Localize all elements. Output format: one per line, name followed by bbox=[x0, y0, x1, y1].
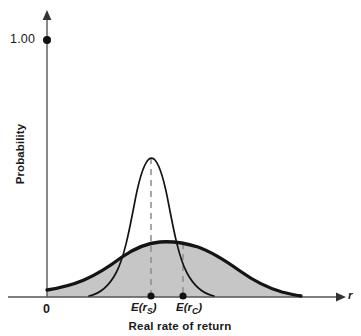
mark-s-suffix: ) bbox=[153, 301, 157, 313]
mark-s-prefix: E(r bbox=[131, 301, 147, 313]
chart-canvas bbox=[0, 0, 361, 336]
mark-c-subscript: C bbox=[192, 306, 198, 316]
y-axis-tick-label: 1.00 bbox=[10, 32, 35, 46]
y-axis-tick-dot-1 bbox=[43, 36, 51, 44]
y-axis-title: Probability bbox=[14, 106, 26, 202]
y-axis-arrowhead bbox=[43, 10, 52, 20]
mark-c-suffix: ) bbox=[198, 301, 202, 313]
x-axis-marker-dot-s bbox=[147, 292, 154, 299]
probability-distribution-figure: 1.00 Probability 0 E(rS) E(rC) Real rate… bbox=[0, 0, 361, 336]
mark-s-subscript: S bbox=[147, 306, 153, 316]
x-axis-label-expected-return-c: E(rC) bbox=[176, 301, 202, 313]
x-axis-marker-dot-c bbox=[179, 292, 186, 299]
x-axis-variable-label: r bbox=[348, 289, 352, 301]
x-axis-label-expected-return-s: E(rS) bbox=[131, 301, 157, 313]
x-axis-arrowhead bbox=[336, 293, 346, 302]
x-axis-title: Real rate of return bbox=[110, 320, 250, 332]
mark-c-prefix: E(r bbox=[176, 301, 192, 313]
x-axis-origin-label: 0 bbox=[43, 302, 50, 316]
shaded-area-wide-distribution bbox=[47, 242, 301, 297]
